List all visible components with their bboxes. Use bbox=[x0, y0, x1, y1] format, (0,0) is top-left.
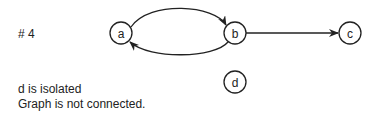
node-a: a bbox=[110, 22, 132, 44]
svg-text:c: c bbox=[347, 27, 353, 41]
node-c: c bbox=[339, 22, 361, 44]
edge-b-to-a bbox=[130, 42, 228, 55]
svg-text:b: b bbox=[232, 27, 239, 41]
note-connectivity: Graph is not connected. bbox=[18, 97, 145, 111]
node-d: d bbox=[224, 71, 246, 93]
edge-a-to-b bbox=[131, 8, 226, 27]
svg-text:d: d bbox=[232, 76, 239, 90]
note-isolated: d is isolated bbox=[18, 82, 81, 96]
node-b: b bbox=[224, 22, 246, 44]
svg-text:a: a bbox=[118, 27, 125, 41]
